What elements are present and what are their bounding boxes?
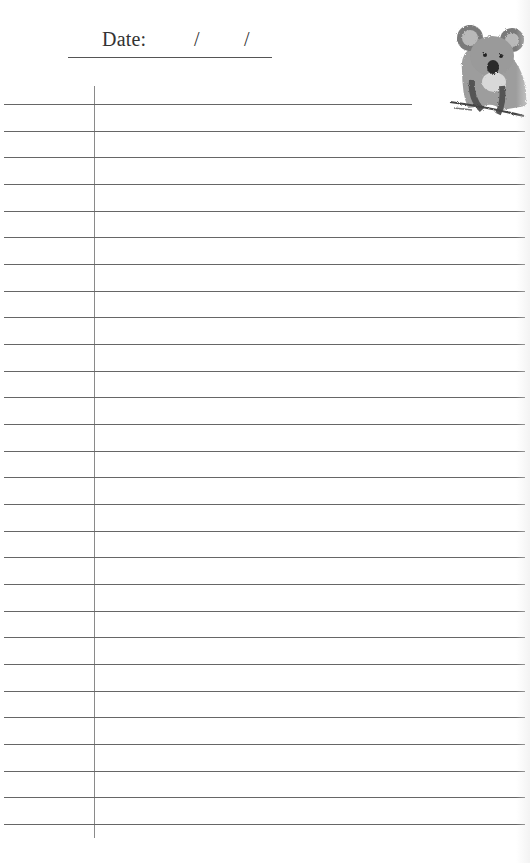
writing-line[interactable]: [4, 664, 525, 665]
writing-line[interactable]: [4, 451, 525, 452]
writing-line[interactable]: [4, 691, 525, 692]
writing-line[interactable]: [4, 371, 525, 372]
koala-illustration-icon: [432, 10, 530, 120]
writing-line[interactable]: [4, 477, 525, 478]
writing-line[interactable]: [4, 744, 525, 745]
writing-line[interactable]: [4, 531, 525, 532]
margin-line: [94, 86, 95, 838]
date-separator: /: [194, 28, 200, 51]
writing-line[interactable]: [4, 211, 525, 212]
writing-line[interactable]: [4, 344, 525, 345]
writing-line[interactable]: [4, 317, 525, 318]
writing-line[interactable]: [4, 717, 525, 718]
writing-line[interactable]: [4, 611, 525, 612]
date-separator: /: [244, 28, 250, 51]
writing-line[interactable]: [4, 557, 525, 558]
writing-line[interactable]: [4, 771, 525, 772]
writing-line[interactable]: [4, 264, 525, 265]
writing-line[interactable]: [4, 157, 525, 158]
writing-line[interactable]: [4, 237, 525, 238]
writing-line[interactable]: [4, 637, 525, 638]
writing-line[interactable]: [4, 291, 525, 292]
writing-line[interactable]: [4, 584, 525, 585]
date-field[interactable]: Date: / /: [68, 22, 272, 58]
date-underline: [68, 57, 272, 58]
writing-line[interactable]: [4, 797, 525, 798]
writing-line[interactable]: [4, 397, 525, 398]
writing-line[interactable]: [4, 104, 412, 105]
writing-line[interactable]: [4, 131, 525, 132]
writing-line[interactable]: [4, 824, 525, 825]
writing-line[interactable]: [4, 184, 525, 185]
writing-line[interactable]: [4, 504, 525, 505]
writing-line[interactable]: [4, 424, 525, 425]
date-label: Date:: [102, 28, 146, 51]
notebook-page: Date: / /: [0, 0, 530, 863]
